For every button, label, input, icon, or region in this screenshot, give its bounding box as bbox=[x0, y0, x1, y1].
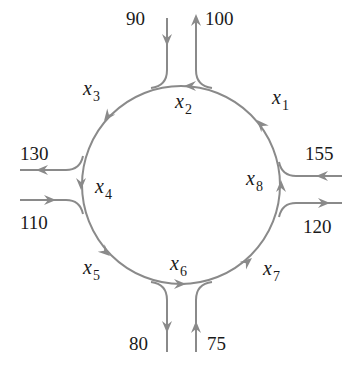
flow-label-bottom-out: 80 bbox=[129, 333, 148, 354]
right-road-in bbox=[279, 162, 342, 181]
flow-label-right-in: 155 bbox=[305, 143, 334, 164]
traffic-roundabout-diagram: 90 100 130 110 155 120 80 75 x1 x2 x3 x4… bbox=[0, 0, 362, 368]
segment-label-x6: x6 bbox=[169, 252, 187, 279]
segment-label-x2: x2 bbox=[174, 90, 192, 117]
segment-label-x1: x1 bbox=[271, 86, 289, 113]
top-road-in bbox=[151, 18, 172, 88]
segment-label-x7: x7 bbox=[262, 257, 280, 284]
segment-label-x3: x3 bbox=[82, 77, 100, 104]
segment-label-x8: x8 bbox=[245, 167, 263, 194]
flow-label-right-out: 120 bbox=[303, 216, 332, 237]
segment-label-x5: x5 bbox=[82, 256, 100, 283]
right-road-out bbox=[279, 198, 342, 217]
segment-label-x4: x4 bbox=[94, 175, 112, 202]
flow-label-top-out: 100 bbox=[205, 8, 234, 29]
flow-label-bottom-in: 75 bbox=[207, 333, 226, 354]
flow-label-top-in: 90 bbox=[126, 8, 145, 29]
flow-label-left-in: 110 bbox=[20, 212, 48, 233]
flow-label-left-out: 130 bbox=[20, 143, 49, 164]
bottom-road-out bbox=[151, 282, 172, 352]
